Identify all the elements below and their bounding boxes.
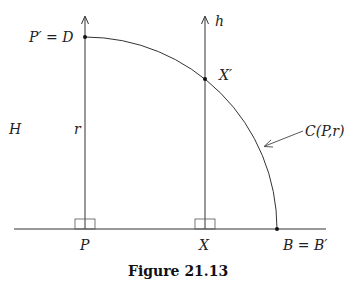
point-x-prime — [203, 77, 207, 81]
label-p: P — [79, 237, 90, 253]
figure-diagram: P′ = D h X′ H r C(P,r) P X B = B′ Figure… — [0, 0, 363, 284]
figure-caption: Figure 21.13 — [128, 263, 228, 279]
label-h: h — [215, 13, 224, 29]
label-r: r — [74, 121, 82, 137]
label-circle: C(P,r) — [305, 123, 344, 139]
circle-arc — [85, 37, 277, 229]
label-x: X — [198, 237, 210, 253]
label-p-prime-eq-d: P′ = D — [28, 29, 73, 45]
point-d — [83, 35, 87, 39]
label-x-prime: X′ — [218, 67, 233, 83]
label-big-h: H — [8, 121, 22, 137]
point-b — [275, 227, 279, 231]
circle-pointer-line — [265, 131, 303, 146]
label-b-eq-b-prime: B = B′ — [282, 237, 328, 253]
